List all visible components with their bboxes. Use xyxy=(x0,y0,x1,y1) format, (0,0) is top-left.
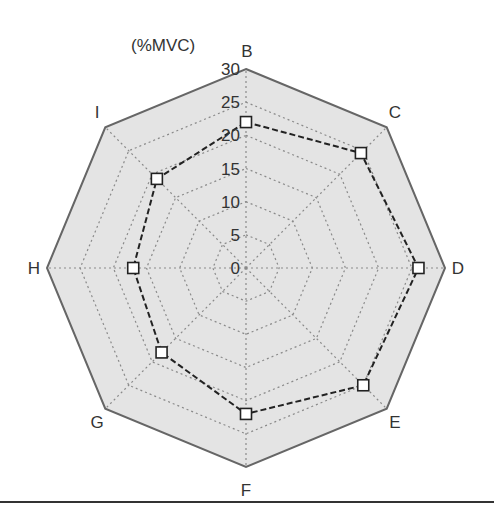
axis-label-e: E xyxy=(389,413,400,432)
data-marker xyxy=(241,117,252,128)
data-marker xyxy=(156,347,167,358)
tick-label: 25 xyxy=(221,93,240,112)
axis-label-c: C xyxy=(389,103,401,122)
tick-label: 20 xyxy=(221,126,240,145)
radar-chart: BCDEFGHI 051015202530 (%MVC) xyxy=(0,0,494,509)
tick-label: 5 xyxy=(231,226,240,245)
data-marker xyxy=(241,408,252,419)
axis-label-d: D xyxy=(452,259,464,278)
data-marker xyxy=(151,173,162,184)
tick-label: 10 xyxy=(221,193,240,212)
unit-label: (%MVC) xyxy=(131,36,195,55)
data-marker xyxy=(413,263,424,274)
axis-label-h: H xyxy=(28,259,40,278)
tick-label: 15 xyxy=(221,160,240,179)
axis-label-b: B xyxy=(241,42,252,61)
axis-label-f: F xyxy=(241,481,251,500)
bottom-rule xyxy=(0,501,494,503)
tick-label: 0 xyxy=(231,259,240,278)
axis-label-g: G xyxy=(90,413,103,432)
data-marker xyxy=(358,380,369,391)
data-marker xyxy=(355,148,366,159)
axis-label-i: I xyxy=(95,103,100,122)
data-marker xyxy=(128,263,139,274)
tick-label: 30 xyxy=(221,60,240,79)
